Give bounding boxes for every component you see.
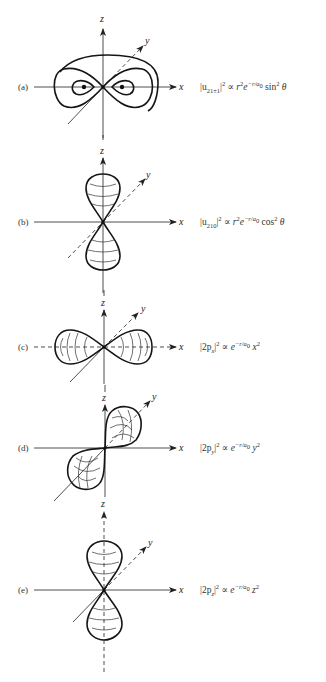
- x-axis-label: x: [178, 584, 184, 595]
- orbital-figure: (a) z x y (b) z x y: [0, 0, 326, 682]
- z-axis-label: z: [101, 392, 106, 403]
- y-axis: [105, 401, 150, 448]
- x-axis-label: x: [178, 442, 184, 453]
- panel-c: (c) z x y: [18, 290, 184, 384]
- y-axis: [103, 179, 145, 222]
- z-axis-label: z: [99, 145, 104, 156]
- origin: [101, 85, 105, 89]
- lobe-upper: [87, 541, 122, 590]
- equation-e: |2pz|2 ∝ e−r/a0 z2: [200, 583, 259, 597]
- equation-b: |u210|2 ∝ r2e−r/a0 cos2 θ: [200, 215, 285, 229]
- z-axis-label: z: [100, 297, 105, 308]
- z-axis-label: z: [100, 498, 105, 509]
- panel-a: (a) z x y: [18, 13, 184, 138]
- lobe-lower: [87, 590, 122, 640]
- panel-label-e: (e): [18, 585, 28, 595]
- x-axis-label: x: [178, 341, 184, 352]
- panel-label-c: (c): [18, 342, 28, 352]
- y-axis-label: y: [144, 35, 150, 46]
- equation-c: |2px|2 ∝ e−r/a0 x2: [200, 340, 260, 354]
- x-axis-label: x: [178, 81, 184, 92]
- y-axis-label: y: [147, 537, 153, 548]
- max-point-left: [82, 85, 86, 89]
- y-axis-label: y: [151, 391, 157, 402]
- panel-d: (d) z x y: [18, 385, 184, 501]
- x-axis-label: x: [178, 216, 184, 227]
- panel-label-d: (d): [18, 443, 29, 453]
- panel-label-b: (b): [18, 217, 29, 227]
- y-axis-label: y: [145, 169, 151, 180]
- panel-label-a: (a): [18, 82, 28, 92]
- y-axis: [104, 547, 146, 590]
- equation-d: |2py|2 ∝ e−r/a0 y2: [200, 441, 260, 455]
- y-axis-label: y: [140, 303, 146, 314]
- panel-b: (b) z x y: [18, 135, 184, 293]
- z-axis-label: z: [99, 13, 104, 24]
- equation-a: |u21±1|2 ∝ r2e−r/a0 sin2 θ: [200, 80, 287, 94]
- max-point-right: [120, 85, 124, 89]
- panel-e: (e) z x y: [18, 498, 184, 672]
